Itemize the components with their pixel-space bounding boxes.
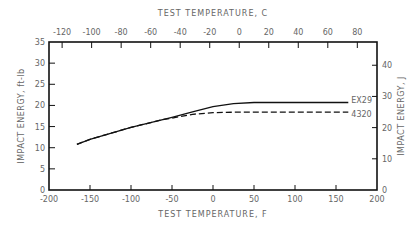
x2-tick-label: -60 (144, 28, 157, 37)
y-tick-label: 5 (40, 165, 45, 174)
x2-tick-label: 80 (352, 28, 362, 37)
plot-frame (49, 42, 377, 190)
y-tick-label: 25 (35, 80, 45, 89)
x2-tick-label: -80 (115, 28, 128, 37)
y-tick-label: 0 (40, 186, 45, 195)
x-axis-title: TEST TEMPERATURE, F (157, 210, 267, 219)
x-tick-label: -50 (165, 195, 178, 204)
x-tick-label: 200 (369, 195, 384, 204)
x2-tick-label: 40 (293, 28, 303, 37)
x-tick-label: 150 (328, 195, 343, 204)
x2-tick-label: 60 (323, 28, 333, 37)
x2-tick-label: -120 (53, 28, 71, 37)
y2-tick-label: 30 (382, 92, 392, 101)
x2-tick-label: 0 (237, 28, 242, 37)
x2-tick-label: -40 (174, 28, 187, 37)
y-tick-label: 15 (35, 123, 45, 132)
series-label: EX29 (351, 96, 372, 105)
y-axis-title: IMPACT ENERGY, ft-lb (17, 68, 26, 163)
x-tick-label: 0 (210, 195, 215, 204)
y2-axis-title: IMPACT ENERGY, J (397, 76, 406, 156)
x2-axis-ticks: -120-100-80-60-40-20020406080 (53, 28, 362, 48)
x2-axis-title: TEST TEMPERATURE, C (157, 9, 268, 18)
y-tick-label: 30 (35, 59, 45, 68)
series-line-EX29 (77, 103, 348, 145)
y2-tick-label: 20 (382, 124, 392, 133)
x2-tick-label: -20 (203, 28, 216, 37)
x2-tick-label: 20 (264, 28, 274, 37)
series-line-4320 (77, 112, 348, 144)
y2-tick-label: 10 (382, 155, 392, 164)
series-lines: EX294320 (77, 96, 372, 144)
y-tick-label: 10 (35, 144, 45, 153)
x-tick-label: 50 (249, 195, 259, 204)
series-label: 4320 (351, 110, 371, 119)
x-tick-label: 100 (287, 195, 302, 204)
y2-tick-label: 0 (382, 186, 387, 195)
y-tick-label: 20 (35, 101, 45, 110)
x-tick-label: -100 (122, 195, 140, 204)
x-tick-label: -200 (40, 195, 58, 204)
x-axis-ticks: -200-150-100-50050100150200 (40, 185, 385, 204)
y2-tick-label: 40 (382, 61, 392, 70)
y2-axis-ticks: 010203040 (372, 61, 392, 195)
y-axis-ticks: 05101520253035 (35, 38, 55, 195)
y-tick-label: 35 (35, 38, 45, 47)
x2-tick-label: -100 (83, 28, 101, 37)
impact-energy-chart: TEST TEMPERATURE, C -120-100-80-60-40-20… (0, 0, 414, 230)
x-tick-label: -150 (81, 195, 99, 204)
